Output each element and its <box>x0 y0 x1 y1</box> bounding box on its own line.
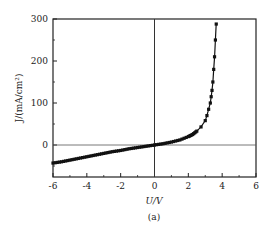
x-tick-label: 0 <box>152 181 158 191</box>
data-point-marker <box>205 114 208 117</box>
x-tick-label: 6 <box>253 181 259 191</box>
series-line <box>53 24 216 163</box>
y-tick-label: 100 <box>31 98 48 108</box>
data-series <box>51 22 217 164</box>
data-point-marker <box>210 95 213 98</box>
x-tick-label: -2 <box>116 181 125 191</box>
x-axis-title: U/V <box>145 196 164 206</box>
y-tick-label: 300 <box>31 14 48 24</box>
data-point-marker <box>213 55 216 58</box>
reference-lines <box>53 19 256 177</box>
data-point-marker <box>215 22 218 25</box>
y-axis-title: J/(mA/cm²) <box>14 74 24 124</box>
figure-caption: (a) <box>148 212 160 222</box>
data-point-marker <box>212 68 215 71</box>
data-point-marker <box>204 119 207 122</box>
data-point-marker <box>209 101 212 104</box>
y-tick-label: 0 <box>42 140 48 150</box>
data-point-marker <box>195 130 198 133</box>
data-point-marker <box>211 80 214 83</box>
data-point-marker <box>207 108 210 111</box>
data-point-marker <box>214 38 217 41</box>
data-point-marker <box>210 89 213 92</box>
axis-ticks: -6-4-202460100200300 <box>31 14 259 191</box>
x-tick-label: -4 <box>82 181 91 191</box>
iv-curve-chart: -6-4-202460100200300 U/V (a) J/(mA/cm²) <box>0 0 272 231</box>
x-tick-label: 2 <box>185 181 191 191</box>
data-point-marker <box>199 125 202 128</box>
x-tick-label: -6 <box>49 181 58 191</box>
y-tick-label: 200 <box>31 56 48 66</box>
x-tick-label: 4 <box>219 181 225 191</box>
